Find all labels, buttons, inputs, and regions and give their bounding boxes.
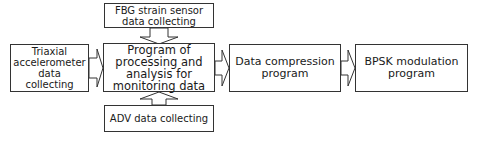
arrow-fbg-to-main <box>140 28 178 44</box>
arrow-triaxial-to-main <box>89 49 103 87</box>
node-data-compression: Data compression program <box>229 44 341 92</box>
node-label: Data compression program <box>232 56 338 80</box>
node-label: Program of processing and analysis for m… <box>106 44 212 92</box>
block-diagram: FBG strain sensor data collecting Triaxi… <box>0 0 480 144</box>
node-processing-program: Program of processing and analysis for m… <box>103 43 215 92</box>
node-label: ADV data collecting <box>110 113 208 124</box>
node-label: Triaxial accelerometer data collecting <box>13 46 86 90</box>
node-label: BPSK modulation program <box>358 56 465 80</box>
arrow-adv-to-main <box>140 92 178 105</box>
node-triaxial-accelerometer: Triaxial accelerometer data collecting <box>10 44 89 92</box>
node-adv-data: ADV data collecting <box>104 105 214 132</box>
node-fbg-strain-sensor: FBG strain sensor data collecting <box>104 3 214 28</box>
node-bpsk-modulation: BPSK modulation program <box>355 44 468 92</box>
arrow-main-to-compression <box>215 50 229 86</box>
arrow-compression-to-bpsk <box>341 50 355 86</box>
node-label: FBG strain sensor data collecting <box>107 5 211 27</box>
